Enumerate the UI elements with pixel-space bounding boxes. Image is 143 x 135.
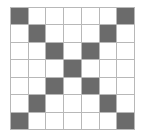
grid-cell-r5-c5: [100, 95, 118, 112]
grid-cell-r6-c2: [46, 113, 64, 130]
grid-cell-r0-c3: [64, 8, 82, 25]
grid-cell-r4-c5: [100, 78, 118, 95]
grid-cell-r4-c4: [82, 78, 100, 95]
grid-cell-r3-c6: [117, 60, 135, 77]
grid-cell-r5-c6: [117, 95, 135, 112]
grid-cell-r5-c4: [82, 95, 100, 112]
grid-cell-r5-c1: [29, 95, 47, 112]
grid-cell-r6-c1: [29, 113, 47, 130]
grid-cell-r1-c4: [82, 25, 100, 42]
grid-cell-r3-c0: [11, 60, 29, 77]
grid-cell-r2-c6: [117, 43, 135, 60]
grid-cell-r1-c1: [29, 25, 47, 42]
grid-cell-r0-c0: [11, 8, 29, 25]
grid-cell-r4-c3: [64, 78, 82, 95]
grid-cell-r6-c4: [82, 113, 100, 130]
grid-cell-r1-c0: [11, 25, 29, 42]
grid-cell-r0-c6: [117, 8, 135, 25]
grid-cell-r5-c2: [46, 95, 64, 112]
grid-cell-r6-c0: [11, 113, 29, 130]
grid-cell-r6-c3: [64, 113, 82, 130]
grid-cell-r0-c4: [82, 8, 100, 25]
grid-cell-r1-c6: [117, 25, 135, 42]
grid-cell-r3-c3: [64, 60, 82, 77]
grid-cell-r2-c5: [100, 43, 118, 60]
grid-cell-r4-c0: [11, 78, 29, 95]
grid-cell-r5-c0: [11, 95, 29, 112]
grid-cell-r2-c1: [29, 43, 47, 60]
grid-cell-r1-c2: [46, 25, 64, 42]
grid-cell-r3-c2: [46, 60, 64, 77]
grid-cell-r3-c1: [29, 60, 47, 77]
grid-cell-r3-c4: [82, 60, 100, 77]
grid-cell-r6-c6: [117, 113, 135, 130]
grid-cell-r6-c5: [100, 113, 118, 130]
grid-cell-r4-c2: [46, 78, 64, 95]
pixel-grid: [10, 7, 135, 130]
grid-cell-r0-c1: [29, 8, 47, 25]
grid-cell-r2-c3: [64, 43, 82, 60]
grid-cell-r0-c2: [46, 8, 64, 25]
grid-cell-r1-c3: [64, 25, 82, 42]
grid-cell-r2-c0: [11, 43, 29, 60]
grid-cell-r1-c5: [100, 25, 118, 42]
grid-cell-r0-c5: [100, 8, 118, 25]
grid-cell-r5-c3: [64, 95, 82, 112]
grid-cell-r2-c2: [46, 43, 64, 60]
grid-cell-r4-c6: [117, 78, 135, 95]
grid-cell-r2-c4: [82, 43, 100, 60]
grid-cell-r3-c5: [100, 60, 118, 77]
grid-cell-r4-c1: [29, 78, 47, 95]
